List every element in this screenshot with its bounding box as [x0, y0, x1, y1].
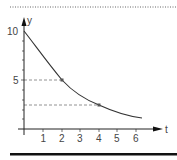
- x-tick-2: 2: [59, 133, 65, 144]
- y-tick-10: 10: [7, 26, 19, 37]
- point-t2: [61, 79, 64, 82]
- x-tick-4: 4: [96, 133, 102, 144]
- bottom-rule: [10, 153, 177, 156]
- x-tick-5: 5: [114, 133, 120, 144]
- y-axis-label: y: [27, 15, 32, 26]
- x-tick-1: 1: [41, 133, 47, 144]
- x-axis-label: t: [165, 124, 168, 135]
- x-tick-3: 3: [77, 133, 83, 144]
- decay-chart: y t 10 5 1 2 3 4 5 6: [0, 0, 177, 160]
- x-tick-6: 6: [133, 133, 139, 144]
- x-axis-arrow-icon: [153, 127, 163, 132]
- y-tick-5: 5: [13, 75, 19, 86]
- point-t4: [98, 104, 101, 107]
- y-axis-arrow-icon: [22, 17, 27, 26]
